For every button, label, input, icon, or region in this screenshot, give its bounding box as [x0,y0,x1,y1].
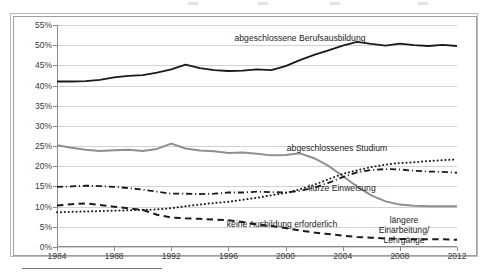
x-axis-tick-label: 1992 [151,251,191,261]
y-axis-tick-label: 50% [4,41,52,49]
series-line-1 [57,144,457,207]
y-axis-tick-label: 5% [4,223,52,231]
page-artifact-4 [418,2,428,5]
y-axis-tick-label: 0% [4,243,52,251]
x-axis-tick-label: 2000 [266,251,306,261]
x-axis-tick-label: 2004 [323,251,363,261]
series-annotation-2: kurze Einweisung [308,183,375,193]
series-annotation-1: abgeschlossenes Studium [287,143,387,153]
y-axis-tick-label: 40% [4,82,52,90]
x-axis-tick-label: 1988 [94,251,134,261]
footnote-rule [22,268,162,269]
y-axis-tick-label: 15% [4,182,52,190]
y-axis-tick-label: 10% [4,203,52,211]
page-artifact-3 [330,2,340,5]
series-annotation-0: abgeschlossene Berufsausbildung [235,33,366,43]
y-axis-tick-label: 45% [4,61,52,69]
x-axis-tick-label: 1984 [37,251,77,261]
series-annotation-4: längere Einarbeitung/ Lehrgänge [366,215,442,245]
y-axis-tick-label: 25% [4,142,52,150]
plot-area [57,25,457,247]
series-line-0 [57,42,457,82]
x-axis-labels: 19841988199219962000200420082012 [57,247,457,261]
page-artifact-2 [258,2,268,5]
x-axis-tick-label: 2008 [380,251,420,261]
y-axis-tick-label: 35% [4,102,52,110]
series-line-2 [57,169,457,194]
x-axis-tick-label: 2012 [437,251,477,261]
y-axis-tick-label: 20% [4,162,52,170]
y-axis-tick-label: 55% [4,21,52,29]
x-axis-tick-label: 1996 [208,251,248,261]
page-artifact-1 [188,2,198,5]
y-axis-tick-label: 30% [4,122,52,130]
series-annotation-3: keine Ausbildung erforderlich [227,219,337,229]
chart-screenshot: 0%5%10%15%20%25%30%35%40%45%50%55% 19841… [0,0,499,279]
y-axis-labels: 0%5%10%15%20%25%30%35%40%45%50%55% [0,25,52,247]
series-lines [57,25,457,247]
